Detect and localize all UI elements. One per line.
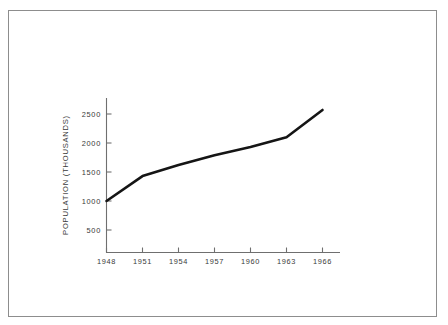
x-tick-label-1963: 1963: [277, 257, 296, 266]
data-series-line: [107, 110, 323, 201]
y-tick-label-1500: 1500: [82, 168, 101, 177]
y-tick-label-500: 500: [87, 226, 101, 235]
population-line-chart: 2500 2000 1500 1000 500 1948 1951 1954 1…: [0, 0, 448, 325]
y-tick-label-2500: 2500: [82, 110, 101, 119]
x-tick-label-1960: 1960: [241, 257, 260, 266]
y-tick-label-2000: 2000: [82, 139, 101, 148]
y-axis-tick-labels: 2500 2000 1500 1000 500: [82, 110, 101, 235]
x-tick-label-1957: 1957: [205, 257, 224, 266]
y-axis-ticks: [107, 114, 112, 230]
x-tick-label-1954: 1954: [169, 257, 188, 266]
x-tick-label-1966: 1966: [313, 257, 332, 266]
x-tick-label-1951: 1951: [133, 257, 152, 266]
y-tick-label-1000: 1000: [82, 197, 101, 206]
chart-svg: 2500 2000 1500 1000 500 1948 1951 1954 1…: [0, 0, 448, 325]
x-axis-ticks: [107, 248, 323, 253]
x-tick-label-1948: 1948: [97, 257, 116, 266]
y-axis-title: POPULATION (THOUSANDS): [61, 115, 70, 235]
x-axis-tick-labels: 1948 1951 1954 1957 1960 1963 1966: [97, 257, 332, 266]
